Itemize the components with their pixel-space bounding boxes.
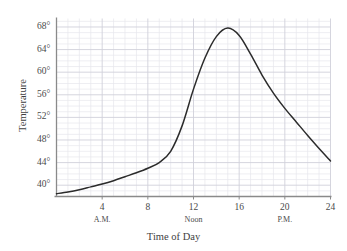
y-axis-tick-label: 68°: [25, 21, 51, 31]
x-axis-tick-label: 4: [87, 202, 117, 212]
grid-major-lines: [57, 19, 331, 197]
x-axis-period-label: A.M.: [82, 215, 122, 224]
x-axis-tick-label: 12: [179, 202, 209, 212]
y-axis-tick-label: 64°: [25, 44, 51, 54]
x-axis-tick-label: 24: [316, 202, 346, 212]
x-axis-tick-label: 8: [133, 202, 163, 212]
y-axis-tick-label: 48°: [25, 134, 51, 144]
x-axis-tick-label: 20: [270, 202, 300, 212]
x-axis-period-label: P.M.: [265, 215, 305, 224]
temperature-time-chart: 40°44°48°52°56°60°64°68° 4812162024 A.M.…: [0, 0, 347, 251]
x-axis-title: Time of Day: [0, 231, 347, 242]
x-axis-tick-label: 16: [224, 202, 254, 212]
y-axis-tick-label: 60°: [25, 66, 51, 76]
chart-plot-svg: [0, 0, 347, 251]
y-axis-title: Temperature: [17, 46, 28, 166]
y-axis-tick-label: 44°: [25, 157, 51, 167]
y-axis-tick-label: 52°: [25, 111, 51, 121]
x-axis-period-label: Noon: [174, 215, 214, 224]
y-axis-tick-label: 56°: [25, 89, 51, 99]
y-axis-tick-label: 40°: [25, 179, 51, 189]
chart-axes: [55, 18, 332, 197]
